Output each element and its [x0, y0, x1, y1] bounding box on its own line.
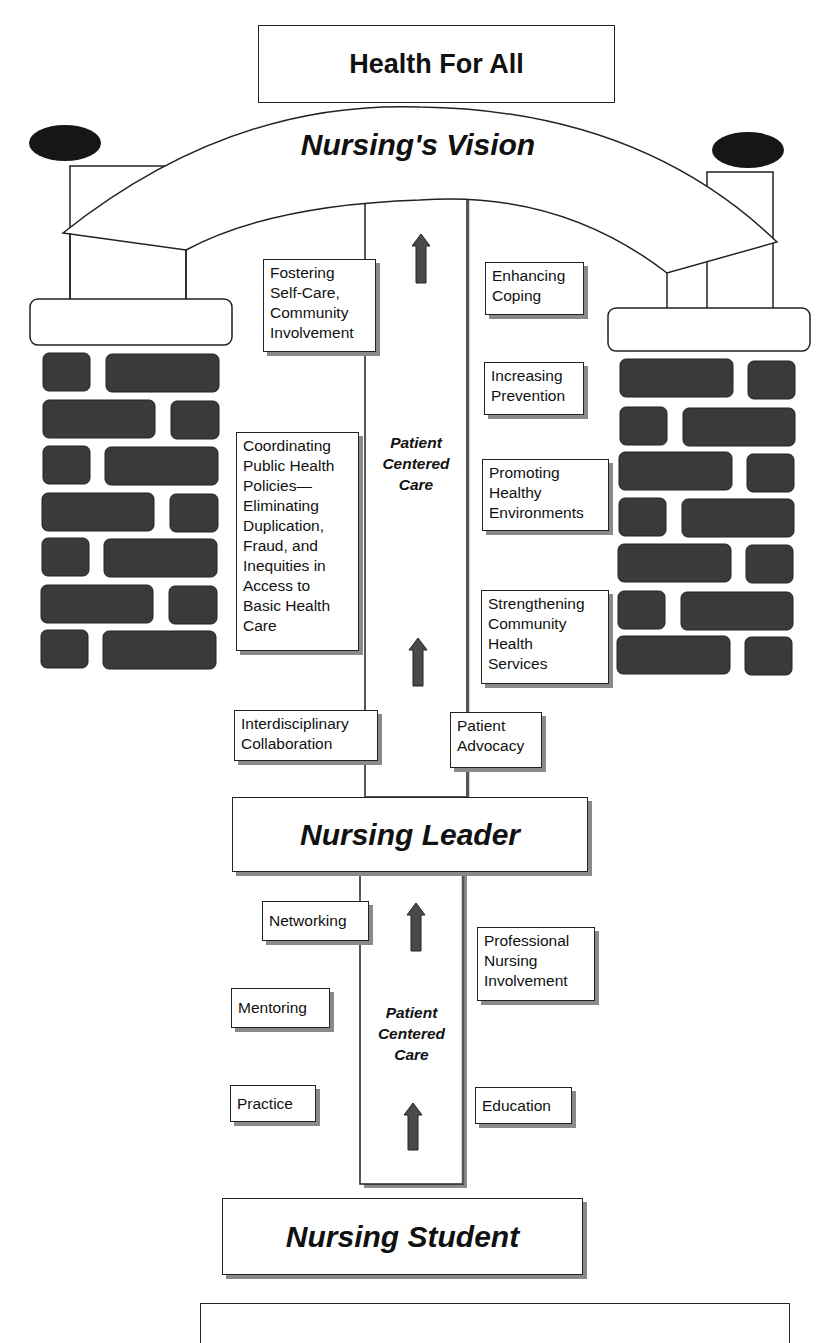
increasing-prevention-box: Increasing Prevention — [484, 362, 584, 415]
education-box: Education — [475, 1087, 572, 1124]
promoting-healthy-environments-box: Promoting Healthy Environments — [482, 459, 609, 531]
coordinating-public-health-policies-box: Coordinating Public Health Policies— Eli… — [236, 432, 359, 651]
upper-patient-centered-care-label: Patient Centered Care — [365, 432, 467, 495]
fostering-self-care-box: Fostering Self-Care, Community Involveme… — [263, 259, 376, 352]
patient-advocacy-box: Patient Advocacy — [450, 712, 542, 768]
left-pillar-cap — [30, 299, 232, 345]
health-for-all-label: Health For All — [349, 49, 524, 80]
interdisciplinary-collaboration-box: Interdisciplinary Collaboration — [234, 710, 378, 761]
upper-column — [365, 195, 467, 797]
right-brick-wall — [617, 359, 795, 675]
nursing-leader-box: Nursing Leader — [232, 797, 588, 872]
health-for-all-box: Health For All — [258, 25, 615, 103]
bottom-caption-box — [200, 1303, 790, 1343]
networking-box: Networking — [262, 901, 369, 941]
mentoring-box: Mentoring — [231, 988, 330, 1028]
left-brick-wall — [41, 353, 219, 669]
practice-box: Practice — [230, 1085, 316, 1122]
enhancing-coping-box: Enhancing Coping — [485, 262, 584, 315]
nursing-student-box: Nursing Student — [222, 1198, 583, 1275]
nursing-student-label: Nursing Student — [286, 1220, 519, 1254]
lower-patient-centered-care-label: Patient Centered Care — [360, 1002, 463, 1065]
professional-nursing-involvement-box: Professional Nursing Involvement — [477, 927, 595, 1001]
right-pillar-cap — [608, 308, 810, 351]
nursings-vision-label: Nursing's Vision — [0, 128, 836, 162]
strengthening-community-health-services-box: Strengthening Community Health Services — [481, 590, 609, 684]
nursing-leader-label: Nursing Leader — [300, 818, 520, 852]
